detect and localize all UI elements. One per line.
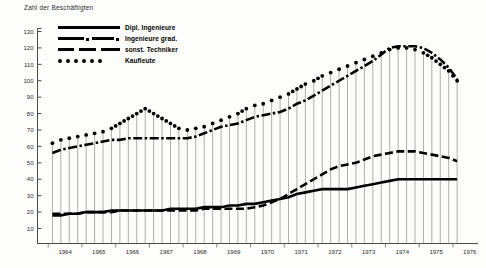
legend-item-label: sonst. Techniker	[125, 46, 178, 53]
x-tick-label: 1964	[58, 249, 72, 255]
x-tick-label: 1970	[261, 249, 275, 255]
legend-swatch-dashed-icon	[58, 44, 120, 55]
x-tick-label: 1968	[193, 249, 207, 255]
x-tick-label: 1965	[92, 249, 106, 255]
y-tick-label: 130	[23, 29, 34, 35]
legend-item: Dipl. Ingenieure	[58, 22, 178, 33]
x-tick-label: 1973	[362, 249, 376, 255]
y-tick-label: 60	[27, 144, 34, 150]
y-tick-label: 30	[27, 193, 34, 199]
legend-swatch-dashdot-icon	[58, 33, 120, 44]
x-tick-label: 1976	[463, 249, 477, 255]
y-tick-label: 80	[27, 111, 34, 117]
x-tick-label: 1972	[328, 249, 342, 255]
x-tick-label: 1967	[160, 249, 174, 255]
y-tick-label: 50	[27, 160, 34, 166]
legend-swatch-solid-icon	[58, 22, 120, 33]
x-tick-label: 1975	[429, 249, 443, 255]
legend-item: Kaufleute	[58, 55, 178, 66]
y-tick-label: 90	[27, 94, 34, 100]
legend-item-label: Ingenieure grad.	[125, 35, 177, 42]
y-tick-label: 10	[27, 226, 34, 232]
y-tick-label: 20	[27, 209, 34, 215]
x-axis: 1964196519661967196819691970197119721973…	[38, 244, 479, 255]
chart-legend: Dipl. Ingenieure Ingenieure grad. sonst.…	[58, 22, 178, 66]
x-tick-label: 1969	[227, 249, 241, 255]
x-tick-label: 1971	[294, 249, 308, 255]
legend-swatch-dotted-icon	[58, 55, 120, 66]
x-tick-label: 1974	[396, 249, 410, 255]
y-tick-label: 100	[23, 78, 34, 84]
y-tick-label: 70	[27, 127, 34, 133]
y-tick-label: 40	[27, 176, 34, 182]
legend-item-label: Dipl. Ingenieure	[125, 24, 175, 31]
x-tick-label: 1966	[126, 249, 140, 255]
droplines	[52, 48, 457, 244]
chart-container: Zahl der Beschäftigten 13012011010090807…	[0, 0, 486, 268]
legend-item: sonst. Techniker	[58, 44, 178, 55]
legend-item-label: Kaufleute	[125, 57, 156, 64]
y-axis: 130120110100908070605040302010	[23, 29, 41, 244]
legend-item: Ingenieure grad.	[58, 33, 178, 44]
y-tick-label: 120	[23, 45, 34, 51]
y-tick-label: 110	[24, 62, 34, 68]
